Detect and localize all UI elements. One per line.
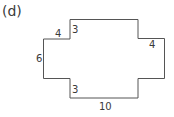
dim-top-left-notch-height: 3 (72, 24, 78, 35)
dim-bottom-left-notch-height: 3 (72, 84, 78, 95)
dim-top-left-notch-width: 4 (55, 28, 61, 39)
dim-bottom-width: 10 (99, 101, 112, 112)
dim-left-side-height: 6 (36, 53, 42, 64)
part-label: (d) (2, 3, 22, 19)
dim-right-notch-width: 4 (149, 39, 155, 50)
figure-canvas: (d) 4 3 6 3 10 4 (0, 0, 174, 117)
cross-shape-outline (44, 20, 165, 99)
